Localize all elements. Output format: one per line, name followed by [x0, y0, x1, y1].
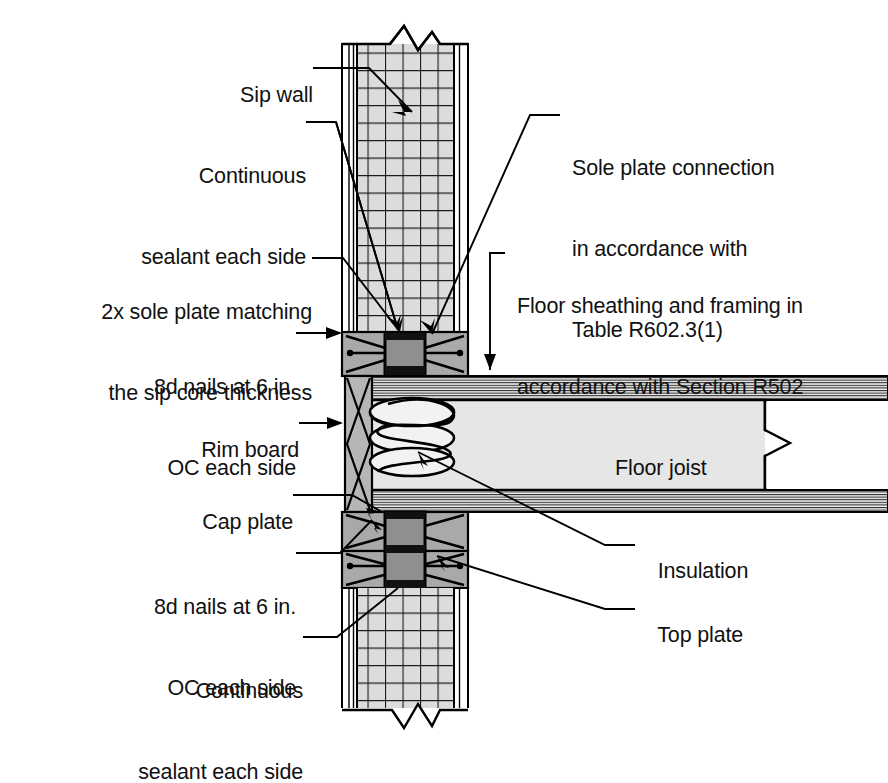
spline-mid-2: [385, 545, 425, 553]
sip-wall-lower: [340, 588, 470, 752]
label-floor-sheathing: Floor sheathing and framing in accordanc…: [517, 239, 888, 428]
label-rim-board: Rim board: [119, 410, 299, 464]
arrow-nails-top: [326, 327, 342, 339]
sole-plate-assembly: [342, 332, 468, 376]
label-continuous-sealant-bottom: Continuous sealant each side: [37, 624, 303, 783]
arrow-rim-board: [327, 417, 343, 429]
sip-skin-right-upper: [454, 44, 468, 332]
rim-board-member: [345, 376, 372, 512]
nail-head-left: [347, 350, 353, 356]
cap-and-top-plate-assembly: [342, 512, 468, 588]
label-insulation: Insulation: [646, 531, 866, 585]
nail-head-right: [457, 350, 463, 356]
spline-cap-top: [385, 333, 425, 340]
label-floor-joist: Floor joist: [560, 428, 750, 482]
sip-core-grid-lower: [357, 588, 454, 710]
sip-wall-upper: [342, 26, 468, 332]
spline-cap-bottom-2: [385, 580, 425, 588]
sip-skin-right-lower: [454, 588, 468, 710]
spline-cap-top-2: [385, 512, 425, 519]
floor-sheathing-bottom: [371, 490, 888, 512]
leader-floor-sheathing: [490, 253, 505, 370]
label-top-plate: Top plate: [646, 595, 866, 649]
label-sip-wall: Sip wall: [103, 55, 313, 109]
arrow-floor-sheathing: [484, 354, 496, 370]
sip-core-grid-upper: [357, 44, 454, 332]
spline-cap-bottom: [385, 366, 425, 375]
label-cap-plate: Cap plate: [113, 482, 293, 536]
nail-head-left-2: [347, 563, 353, 569]
rim-board-rect: [345, 376, 372, 512]
